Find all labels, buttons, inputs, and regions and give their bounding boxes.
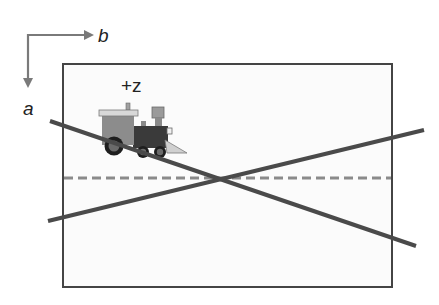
b-axis-arrowhead-icon: [84, 30, 94, 40]
diagram-canvas: [0, 0, 439, 305]
a-axis-label: a: [23, 99, 34, 118]
train-direction-label: +z: [121, 76, 142, 95]
cab-whistle: [126, 103, 130, 110]
headlight: [167, 128, 172, 134]
a-axis-arrowhead-icon: [23, 78, 33, 88]
boiler: [133, 126, 168, 148]
cab-roof: [99, 110, 138, 116]
b-axis-label: b: [98, 26, 109, 45]
front-wheel-2-hub: [157, 149, 163, 155]
smokestack: [152, 107, 164, 118]
smokestack-neck: [155, 118, 162, 127]
